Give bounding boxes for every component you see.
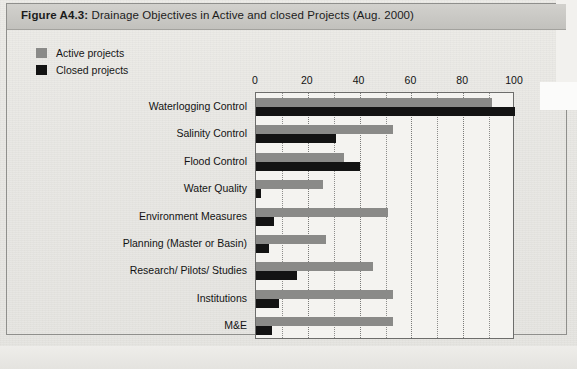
x-tick-20: 20 bbox=[301, 74, 313, 86]
bar-group bbox=[256, 125, 513, 143]
bar-active bbox=[256, 290, 393, 299]
category-label: Water Quality bbox=[184, 182, 247, 194]
bar-group bbox=[256, 235, 513, 253]
category-label: Institutions bbox=[197, 292, 247, 304]
category-label: Environment Measures bbox=[139, 210, 247, 222]
legend-item-active: Active projects bbox=[36, 46, 128, 60]
bar-closed bbox=[256, 217, 274, 226]
bar-series-container bbox=[256, 93, 513, 338]
bar-active bbox=[256, 208, 388, 217]
bar-closed bbox=[256, 162, 360, 171]
bar-active bbox=[256, 317, 393, 326]
x-axis-tick-labels: 020406080100 bbox=[255, 74, 516, 90]
x-tick-40: 40 bbox=[353, 74, 365, 86]
figure-title: Figure A4.3: Drainage Objectives in Acti… bbox=[21, 9, 414, 21]
bar-closed bbox=[256, 326, 272, 335]
bar-closed bbox=[256, 189, 261, 198]
category-label: Flood Control bbox=[184, 155, 247, 167]
bar-group bbox=[256, 98, 513, 116]
legend-swatch-active-projects bbox=[36, 48, 47, 58]
bar-active bbox=[256, 235, 326, 244]
bar-closed bbox=[256, 299, 279, 308]
bar-group bbox=[256, 180, 513, 198]
bar-closed bbox=[256, 244, 269, 253]
legend-label-active-projects: Active projects bbox=[56, 47, 124, 59]
bar-active bbox=[256, 180, 323, 189]
category-label: Research/ Pilots/ Studies bbox=[130, 264, 247, 276]
bar-closed bbox=[256, 271, 297, 280]
bar-active bbox=[256, 125, 393, 134]
bar-group bbox=[256, 208, 513, 226]
figure-title-band: Figure A4.3: Drainage Objectives in Acti… bbox=[7, 4, 566, 30]
category-label: Salinity Control bbox=[176, 127, 247, 139]
category-label: Waterlogging Control bbox=[149, 100, 247, 112]
y-axis-category-labels: Waterlogging ControlSalinity ControlFloo… bbox=[114, 92, 251, 339]
bar-group bbox=[256, 153, 513, 171]
bar-closed bbox=[256, 107, 515, 116]
bar-active bbox=[256, 98, 492, 107]
x-tick-100: 100 bbox=[505, 74, 523, 86]
figure-page: Figure A4.3: Drainage Objectives in Acti… bbox=[0, 0, 577, 369]
bar-group bbox=[256, 262, 513, 280]
page-bottom-edge bbox=[0, 346, 577, 369]
x-tick-60: 60 bbox=[405, 74, 417, 86]
figure-number: Figure A4.3: bbox=[21, 9, 88, 21]
plot-area bbox=[255, 92, 514, 339]
bar-closed bbox=[256, 134, 336, 143]
category-label: Planning (Master or Basin) bbox=[123, 237, 247, 249]
bar-chart: 020406080100 Waterlogging ControlSalinit… bbox=[114, 74, 516, 342]
bar-group bbox=[256, 290, 513, 308]
figure-caption: Drainage Objectives in Active and closed… bbox=[92, 9, 415, 21]
bar-group bbox=[256, 317, 513, 335]
bar-active bbox=[256, 262, 373, 271]
x-tick-80: 80 bbox=[456, 74, 468, 86]
x-tick-0: 0 bbox=[252, 74, 258, 86]
page-edge-notch bbox=[540, 82, 577, 110]
legend-swatch-closed-projects bbox=[36, 65, 47, 75]
bar-active bbox=[256, 153, 344, 162]
category-label: M&E bbox=[224, 319, 247, 331]
